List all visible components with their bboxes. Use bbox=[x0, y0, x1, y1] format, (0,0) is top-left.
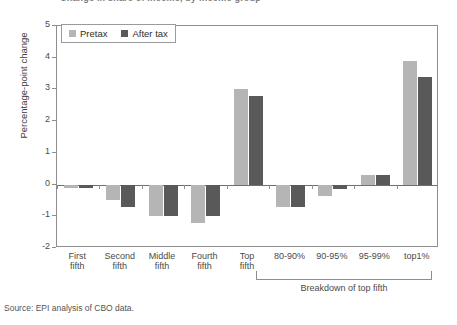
breakdown-bracket-label: Breakdown of top fifth bbox=[256, 283, 432, 293]
bar-after-tax bbox=[164, 185, 178, 217]
x-tick-mark bbox=[142, 185, 143, 189]
chart-legend: Pretax After tax bbox=[61, 24, 176, 43]
bar-pretax bbox=[361, 175, 375, 185]
x-category-label: Top fifth bbox=[226, 251, 268, 271]
y-tick-mark bbox=[52, 247, 56, 248]
plot-area bbox=[56, 25, 438, 247]
x-tick-mark bbox=[57, 185, 58, 189]
y-axis-title: Percentage-point change bbox=[18, 0, 29, 181]
x-category-label: Middle fifth bbox=[141, 251, 183, 271]
breakdown-bracket bbox=[256, 271, 432, 280]
x-category-label: Fourth fifth bbox=[183, 251, 225, 271]
x-tick-mark bbox=[227, 185, 228, 189]
legend-entry-pretax: Pretax bbox=[69, 28, 107, 39]
bar-pretax bbox=[64, 185, 78, 188]
x-category-label: First fifth bbox=[56, 251, 98, 271]
x-tick-mark bbox=[99, 185, 100, 189]
legend-swatch-after-tax-icon bbox=[121, 30, 128, 37]
bar-pretax bbox=[318, 185, 332, 196]
bar-pretax bbox=[234, 89, 248, 184]
bar-after-tax bbox=[376, 175, 390, 185]
legend-swatch-pretax-icon bbox=[69, 30, 76, 37]
bar-after-tax bbox=[291, 185, 305, 207]
legend-label-pretax: Pretax bbox=[80, 28, 107, 39]
bar-after-tax bbox=[249, 96, 263, 185]
x-tick-mark bbox=[269, 185, 270, 189]
bar-pretax bbox=[191, 185, 205, 223]
chart-title: Change in share of income, by income gro… bbox=[60, 0, 261, 3]
x-category-label: 90-95% bbox=[311, 251, 353, 261]
y-tick-label: -2 bbox=[28, 242, 50, 251]
y-tick-label: 4 bbox=[28, 52, 50, 61]
x-category-label: 95-99% bbox=[353, 251, 395, 261]
bar-pretax bbox=[276, 185, 290, 207]
source-note: Source: EPI analysis of CBO data. bbox=[4, 303, 134, 313]
x-category-label: top1% bbox=[396, 251, 438, 261]
y-tick-label: 2 bbox=[28, 115, 50, 124]
bar-after-tax bbox=[206, 185, 220, 217]
bar-pretax bbox=[403, 61, 417, 185]
bar-pretax bbox=[149, 185, 163, 217]
y-tick-label: 3 bbox=[28, 83, 50, 92]
x-tick-mark bbox=[354, 185, 355, 189]
y-tick-label: 1 bbox=[28, 147, 50, 156]
y-tick-label: -1 bbox=[28, 210, 50, 219]
bar-pretax bbox=[106, 185, 120, 201]
bar-after-tax bbox=[121, 185, 135, 207]
y-tick-label: 5 bbox=[28, 20, 50, 29]
y-tick-label: 0 bbox=[28, 179, 50, 188]
legend-label-after-tax: After tax bbox=[132, 28, 167, 39]
bar-after-tax bbox=[79, 185, 93, 188]
x-category-label: Second fifth bbox=[98, 251, 140, 271]
x-tick-mark bbox=[397, 185, 398, 189]
bar-after-tax bbox=[333, 185, 347, 190]
bar-after-tax bbox=[418, 77, 432, 185]
x-tick-mark bbox=[312, 185, 313, 189]
x-category-label: 80-90% bbox=[268, 251, 310, 261]
legend-entry-after-tax: After tax bbox=[121, 28, 167, 39]
x-tick-mark bbox=[184, 185, 185, 189]
